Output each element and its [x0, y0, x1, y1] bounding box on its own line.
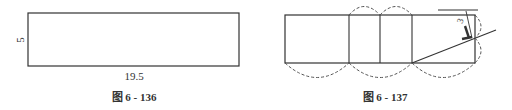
dashed-arcs [285, 7, 481, 78]
diagram-canvas: 5 19.5 图 6 - 136 3 图 6 - 137 [0, 0, 512, 110]
figure-caption: 图 6 - 136 [112, 91, 157, 103]
figure-6-137 [285, 7, 496, 78]
diagonal-cut-line [412, 30, 496, 63]
figure-6-136: 5 19.5 图 6 - 136 [14, 13, 239, 103]
angle-marker [465, 26, 469, 38]
rectangle [28, 13, 239, 66]
angle-label: 3 [455, 17, 466, 25]
width-label: 19.5 [124, 70, 144, 82]
angle-marker-foot [462, 37, 472, 39]
figure-caption: 图 6 - 137 [363, 91, 408, 103]
height-label: 5 [14, 37, 26, 43]
